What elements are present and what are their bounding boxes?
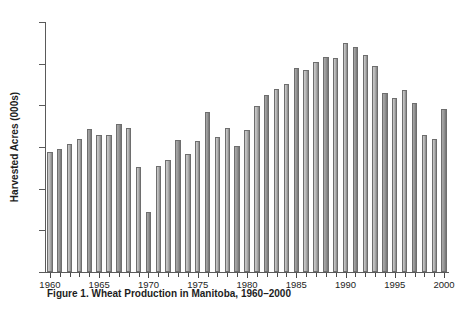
plot-area: Harvested Acres (000s) 01000200030004000…	[45, 22, 449, 272]
bar	[294, 68, 299, 272]
bar	[402, 90, 407, 273]
bar	[303, 70, 308, 272]
bar	[323, 57, 328, 272]
x-tick-mark	[89, 273, 90, 277]
bar	[343, 43, 348, 272]
bar	[382, 93, 387, 272]
bar	[57, 149, 62, 272]
bar	[77, 139, 82, 272]
bar	[126, 128, 131, 272]
x-tick-mark	[346, 273, 347, 278]
x-tick-mark	[355, 273, 356, 277]
bar	[412, 103, 417, 272]
y-tick-mark	[39, 272, 46, 273]
bar	[274, 89, 279, 272]
y-axis-label-container: Harvested Acres (000s)	[7, 22, 21, 272]
bar	[313, 62, 318, 272]
y-tick-mark	[39, 230, 46, 231]
x-tick-mark	[316, 273, 317, 277]
x-tick-mark	[444, 273, 445, 278]
x-tick-label: 2000	[433, 279, 454, 290]
x-tick-mark	[267, 273, 268, 277]
bar	[441, 109, 446, 272]
x-tick-mark	[60, 273, 61, 277]
bar	[244, 130, 249, 272]
figure-caption: Figure 1. Wheat Production in Manitoba, …	[47, 288, 291, 299]
x-tick-mark	[306, 273, 307, 277]
x-tick-mark	[79, 273, 80, 277]
x-tick-mark	[365, 273, 366, 277]
x-tick-mark	[415, 273, 416, 277]
bar	[205, 112, 210, 272]
x-tick-mark	[188, 273, 189, 277]
bar	[333, 58, 338, 272]
x-tick-label: 1990	[335, 279, 356, 290]
x-tick-mark	[385, 273, 386, 277]
bar	[136, 167, 141, 272]
bar	[106, 135, 111, 273]
x-tick-mark	[158, 273, 159, 277]
x-tick-mark	[336, 273, 337, 277]
y-tick-mark	[39, 189, 46, 190]
bar	[96, 135, 101, 272]
bar	[185, 154, 190, 272]
bar	[225, 128, 230, 272]
x-tick-mark	[424, 273, 425, 277]
x-tick-mark	[168, 273, 169, 277]
x-tick-mark	[70, 273, 71, 277]
bar	[116, 124, 121, 272]
bar	[47, 152, 52, 272]
x-tick-mark	[50, 273, 51, 278]
x-tick-mark	[227, 273, 228, 277]
x-tick-mark	[217, 273, 218, 277]
x-tick-mark	[296, 273, 297, 278]
x-tick-mark	[139, 273, 140, 277]
bar	[422, 135, 427, 273]
x-tick-mark	[434, 273, 435, 277]
y-tick-mark	[39, 64, 46, 65]
x-tick-mark	[99, 273, 100, 278]
bar	[215, 137, 220, 272]
y-tick-mark	[39, 105, 46, 106]
bar	[254, 106, 259, 272]
bar	[87, 129, 92, 272]
bar	[432, 139, 437, 272]
bar	[264, 95, 269, 272]
bar	[146, 212, 151, 272]
y-axis-label: Harvested Acres (000s)	[9, 92, 20, 202]
bar	[234, 146, 239, 272]
bar	[363, 55, 368, 272]
x-tick-mark	[119, 273, 120, 277]
bar	[284, 84, 289, 272]
x-tick-mark	[326, 273, 327, 277]
bar	[67, 144, 72, 272]
x-tick-mark	[405, 273, 406, 277]
x-tick-label: 1995	[384, 279, 405, 290]
bar	[195, 141, 200, 272]
bar	[392, 98, 397, 272]
x-tick-mark	[178, 273, 179, 277]
x-tick-mark	[129, 273, 130, 277]
y-tick-mark	[39, 147, 46, 148]
x-tick-mark	[257, 273, 258, 277]
x-tick-mark	[237, 273, 238, 277]
x-tick-mark	[109, 273, 110, 277]
bar	[372, 66, 377, 272]
y-tick-mark	[39, 22, 46, 23]
bar	[175, 140, 180, 272]
bar	[156, 166, 161, 272]
x-tick-mark	[286, 273, 287, 277]
x-tick-mark	[208, 273, 209, 277]
bar	[353, 47, 358, 272]
x-tick-mark	[277, 273, 278, 277]
x-tick-mark	[247, 273, 248, 278]
x-tick-mark	[148, 273, 149, 278]
x-tick-mark	[395, 273, 396, 278]
x-tick-mark	[198, 273, 199, 278]
bar	[165, 160, 170, 273]
x-tick-mark	[375, 273, 376, 277]
